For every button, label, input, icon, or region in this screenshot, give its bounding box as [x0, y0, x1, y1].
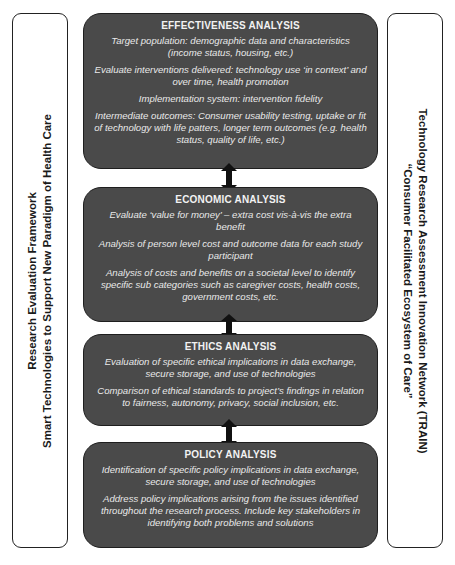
ethics-analysis-box: ETHICS ANALYSIS Evaluation of specific e…	[83, 334, 378, 426]
box-item: Identification of specific policy implic…	[94, 464, 367, 488]
right-panel-train: Technology Research Assessment Innovatio…	[387, 13, 443, 548]
left-panel-framework: Research Evaluation Framework Smart Tech…	[12, 13, 68, 548]
box-item: Comparison of ethical standards to proje…	[94, 385, 367, 409]
box-title: ETHICS ANALYSIS	[94, 341, 367, 352]
economic-analysis-box: ECONOMIC ANALYSIS Evaluate ‘value for mo…	[83, 187, 378, 322]
framework-title: Research Evaluation Framework	[25, 21, 40, 541]
train-subtitle: “Consumer Facilitated Ecosystem of Care”	[400, 21, 415, 541]
box-item: Analysis of person level cost and outcom…	[94, 238, 367, 262]
box-item: Evaluate interventions delivered: techno…	[94, 64, 367, 88]
box-item: Evaluation of specific ethical implicati…	[94, 356, 367, 380]
box-item: Address policy implications arising from…	[94, 493, 367, 529]
box-title: EFFECTIVENESS ANALYSIS	[94, 20, 367, 31]
box-item: Evaluate ‘value for money’ – extra cost …	[94, 209, 367, 233]
box-item: Intermediate outcomes: Consumer usabilit…	[94, 110, 367, 146]
box-title: POLICY ANALYSIS	[94, 449, 367, 460]
effectiveness-analysis-box: EFFECTIVENESS ANALYSIS Target population…	[83, 13, 378, 169]
box-item: Analysis of costs and benefits on a soci…	[94, 267, 367, 303]
train-title: Technology Research Assessment Innovatio…	[415, 21, 430, 541]
policy-analysis-box: POLICY ANALYSIS Identification of specif…	[83, 442, 378, 548]
box-item: Target population: demographic data and …	[94, 35, 367, 59]
box-title: ECONOMIC ANALYSIS	[94, 194, 367, 205]
box-item: Implementation system: intervention fide…	[94, 93, 367, 105]
framework-subtitle: Smart Technologies to Support New Paradi…	[40, 21, 55, 541]
